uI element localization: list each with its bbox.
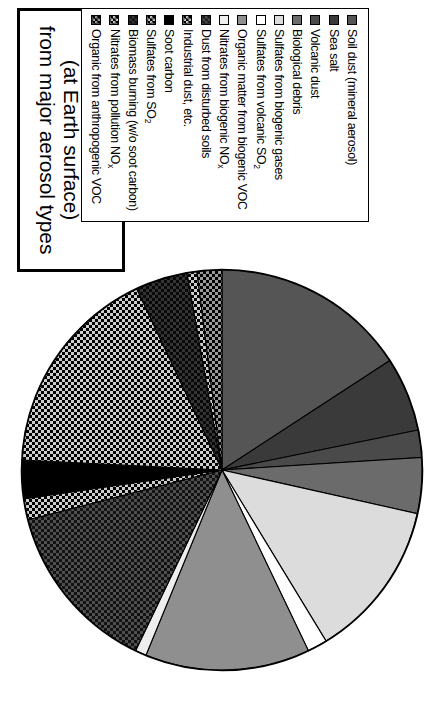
legend-swatch-icon [310,15,320,25]
legend-item-label: Volcanic dust [309,29,321,98]
legend-swatch-icon [292,15,302,25]
legend-item: Industrial dust, etc. [178,15,196,215]
legend-swatch-icon [146,15,156,25]
legend-item-label: Sulfates from biogenic gases [273,29,285,180]
legend-item-label: Dust from disturbed soils [200,29,212,158]
legend-swatch-icon [182,15,192,25]
legend-item-label: Nitrates from biogenic NOx [218,29,230,168]
legend-item: Soot carbon [160,15,178,215]
title-line-3: from major aerosol types [34,26,58,255]
legend-item: Biological debris [288,15,306,215]
legend-swatch-icon [109,15,119,25]
legend-item: Organic matter from biogenic VOC [233,15,251,215]
legend-item-label: Sulfates from volcanic SO2 [254,29,266,169]
legend-item: Dust from disturbed soils [197,15,215,215]
legend-swatch-icon [219,15,229,25]
legend-item: Soil dust (mineral aerosol) [343,15,361,215]
pie-slices [22,270,422,670]
legend-item-label: Soil dust (mineral aerosol) [346,29,358,165]
legend-swatch-icon [347,15,357,25]
legend-item: Nitrates from pollution NOx [105,15,123,215]
legend-item: Nitrates from biogenic NOx [215,15,233,215]
legend-swatch-icon [128,15,138,25]
legend-swatch-icon [256,15,266,25]
title-line-2: (at Earth surface) [59,60,83,220]
legend-item-label: Sulfates from SO2 [145,29,157,123]
legend-item: Sulfates from volcanic SO2 [251,15,269,215]
legend-item-label: Soot carbon [163,29,175,93]
legend-swatch-icon [237,15,247,25]
legend-item: Biomass burning (w/o soot carbon) [124,15,142,215]
legend-item: Sea salt [324,15,342,215]
legend-swatch-icon [329,15,339,25]
legend-swatch-icon [164,15,174,25]
legend-swatch-icon [274,15,284,25]
legend-item-label: Organic matter from biogenic VOC [236,29,248,210]
legend-item-label: Biomass burning (w/o soot carbon) [127,29,139,211]
legend-item-label: Industrial dust, etc. [181,29,193,127]
legend-swatch-icon [201,15,211,25]
legend-item-label: Organic from anthropogenic VOC [90,29,102,204]
legend-item-label: Nitrates from pollution NOx [108,29,120,168]
legend-item: Sulfates from SO2 [142,15,160,215]
legend-item: Organic from anthropogenic VOC [87,15,105,215]
legend-item: Sulfates from biogenic gases [270,15,288,215]
legend-item-label: Sea salt [327,29,339,71]
pie-chart-svg [20,268,424,672]
legend-swatch-icon [91,15,101,25]
pie-chart [20,268,424,672]
legend-box: Soil dust (mineral aerosol)Sea saltVolca… [81,8,369,222]
legend-item: Volcanic dust [306,15,324,215]
legend-item-label: Biological debris [291,29,303,114]
figure-root: Radiative effect (at Earth surface) from… [0,0,444,704]
